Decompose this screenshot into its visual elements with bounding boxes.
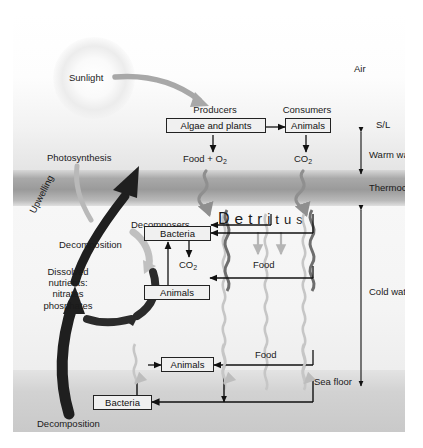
label-carbon-dioxide-surface: CO2 xyxy=(294,153,312,164)
label-food-midwater: Food xyxy=(253,259,275,270)
detritus-letter: t xyxy=(248,210,252,227)
diagram-canvas: Sunlight Air S/L Producers Algae and pla… xyxy=(0,0,423,448)
detritus-letter: u xyxy=(284,212,291,227)
label-cold-water: Cold water xyxy=(369,286,405,297)
label-photosynthesis: Photosynthesis xyxy=(47,152,111,163)
dissolved-line-4: phosphates xyxy=(43,300,92,311)
box-algae-and-plants[interactable]: Algae and plants xyxy=(166,118,266,133)
heading-producers: Producers xyxy=(179,104,251,115)
label-surface-marker: S/L xyxy=(376,119,390,130)
detritus-letter: t xyxy=(275,212,279,227)
label-thermocline: Thermocline xyxy=(369,182,405,193)
dissolved-line-3: nitrates xyxy=(52,288,83,299)
box-animals-surface[interactable]: Animals xyxy=(285,118,331,133)
label-food-plus-oxygen: Food + O2 xyxy=(183,153,227,164)
detritus-letter: r xyxy=(257,211,262,227)
box-animals-midwater[interactable]: Animals xyxy=(144,285,210,300)
box-bacteria-benthic[interactable]: Bacteria xyxy=(93,395,152,410)
label-food-deepwater: Food xyxy=(255,349,277,360)
label-carbon-dioxide-midwater: CO2 xyxy=(179,259,197,270)
heading-detritus: Detritus xyxy=(218,210,302,228)
label-decomposition-midwater: Decomposition xyxy=(59,239,122,250)
detritus-letter: D xyxy=(218,210,230,228)
label-sea-floor: Sea floor xyxy=(314,376,352,387)
label-warm-water: Warm water xyxy=(369,149,405,160)
heading-consumers: Consumers xyxy=(271,104,343,115)
box-bacteria-midwater[interactable]: Bacteria xyxy=(144,226,211,241)
label-dissolved-nutrients: Dissolved nutrients: nitrates phosphates xyxy=(25,266,111,311)
detritus-letter: i xyxy=(267,211,270,227)
label-sunlight: Sunlight xyxy=(69,72,103,83)
box-animals-deepwater[interactable]: Animals xyxy=(161,357,214,372)
detritus-letter: e xyxy=(235,210,244,228)
detritus-letter: s xyxy=(296,213,302,227)
dissolved-line-1: Dissolved xyxy=(47,266,88,277)
label-decomposition-benthic: Decomposition xyxy=(37,418,100,429)
label-air: Air xyxy=(354,63,366,74)
ocean-scene: Sunlight Air S/L Producers Algae and pla… xyxy=(13,14,405,432)
dissolved-line-2: nutrients: xyxy=(48,277,87,288)
